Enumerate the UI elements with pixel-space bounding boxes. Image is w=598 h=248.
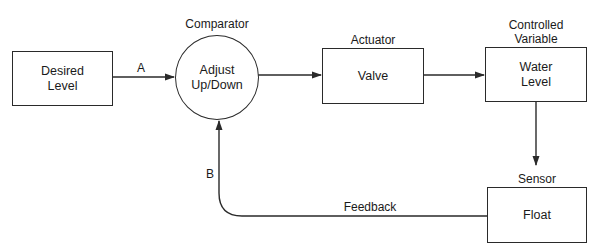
sensor-text: Float <box>523 208 551 223</box>
comparator-text: Adjust Up/Down <box>191 63 242 93</box>
actuator-caption: Actuator <box>322 33 424 47</box>
actuator-text: Valve <box>358 69 388 84</box>
desired-level-text: Desired Level <box>41 64 84 94</box>
feedback-label: Feedback <box>335 200 405 214</box>
controlled-variable-caption: Controlled Variable <box>485 18 587 46</box>
water-level-box: Water Level <box>485 47 587 102</box>
comparator-circle: Adjust Up/Down <box>175 35 259 120</box>
water-level-text: Water Level <box>520 60 553 90</box>
edge-label-b: B <box>203 167 217 181</box>
actuator-valve-box: Valve <box>322 48 424 104</box>
sensor-caption: Sensor <box>487 172 587 186</box>
desired-level-box: Desired Level <box>12 51 113 106</box>
edge-label-a: A <box>134 61 148 75</box>
sensor-float-box: Float <box>487 187 587 243</box>
comparator-caption: Comparator <box>176 17 258 31</box>
